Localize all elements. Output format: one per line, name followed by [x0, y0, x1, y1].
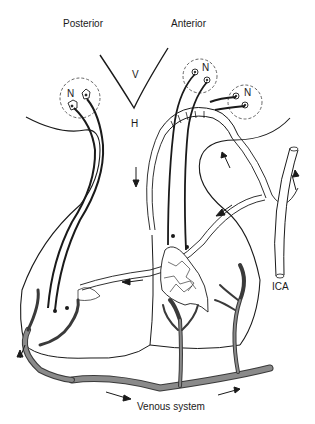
ica-vessel — [275, 148, 298, 276]
label-ica: ICA — [272, 282, 289, 292]
portal-arch-outer — [160, 108, 238, 136]
anterior-axon-1 — [168, 74, 195, 245]
posterior-capillary-tuft — [78, 288, 100, 301]
label-nucleus-anterior-top: N — [202, 63, 209, 73]
anterior-lobe-outline — [150, 345, 240, 349]
label-nucleus-left: N — [67, 89, 74, 99]
posterior-lobe-outline — [25, 235, 153, 358]
label-anterior: Anterior — [171, 19, 206, 29]
pituitary-diagram — [0, 0, 315, 424]
label-hypothalamus: H — [131, 119, 138, 129]
portal-vessel-left-inner — [152, 135, 165, 230]
secondary-plexus — [161, 247, 209, 312]
venous-system-vessels — [25, 265, 270, 388]
anterior-axon-3 — [210, 97, 236, 102]
hypothalamus-left-boundary — [21, 117, 100, 345]
label-posterior: Posterior — [63, 19, 103, 29]
diagram-canvas: Posterior Anterior V H N N N ICA Venous … — [0, 0, 315, 424]
label-nucleus-anterior-side: N — [244, 88, 251, 98]
nucleus-circle-anterior-top — [183, 59, 217, 93]
neuron-cells — [68, 69, 248, 110]
label-venous-system: Venous system — [137, 402, 205, 412]
label-ventricle: V — [132, 70, 139, 80]
